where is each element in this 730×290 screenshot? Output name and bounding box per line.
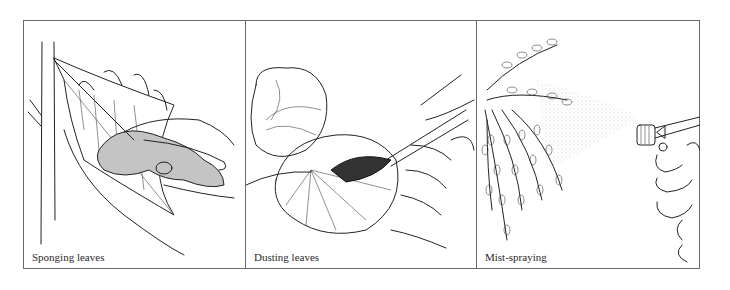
panel-sponging: Sponging leaves (24, 20, 245, 269)
caption-dusting: Dusting leaves (254, 251, 319, 263)
panel-dusting: Dusting leaves (246, 20, 476, 269)
mist-illustration (477, 20, 700, 269)
sponging-illustration (24, 20, 245, 269)
dusting-illustration (246, 20, 476, 269)
caption-mist: Mist-spraying (485, 251, 547, 263)
caption-sponging: Sponging leaves (32, 251, 104, 263)
panel-mist: Mist-spraying (477, 20, 700, 269)
